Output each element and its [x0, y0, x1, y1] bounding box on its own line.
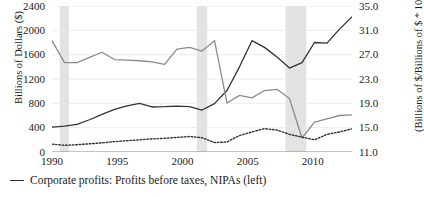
y-tick-right: 27.0	[359, 49, 403, 60]
y-tick-right: 23.0	[359, 74, 403, 85]
x-tick: 2000	[152, 156, 212, 167]
chart-canvas	[52, 6, 352, 152]
y-tick-left: 1600	[0, 49, 45, 60]
legend-line-marker	[10, 180, 24, 181]
y-tick-right: 15.0	[359, 122, 403, 133]
y-axis-label-right: (Billions of $/Billions of $ * 100)	[413, 0, 424, 142]
y-tick-right: 31.0	[359, 25, 403, 36]
y-tick-right: 35.0	[359, 1, 403, 12]
y-tick-left: 2400	[0, 1, 45, 12]
chart-legend: Corporate profits: Profits before taxes,…	[10, 174, 266, 186]
y-tick-right: 11.0	[359, 147, 403, 158]
y-tick-left: 1200	[0, 74, 45, 85]
y-tick-right: 19.0	[359, 98, 403, 109]
y-tick-left: 400	[0, 122, 45, 133]
x-tick: 2010	[283, 156, 343, 167]
x-tick: 1990	[22, 156, 82, 167]
plot-area	[52, 6, 352, 152]
y-tick-left: 800	[0, 98, 45, 109]
x-tick: 1995	[87, 156, 147, 167]
y-tick-left: 2000	[0, 25, 45, 36]
x-tick: 2005	[218, 156, 278, 167]
legend-label-corporate-profits: Corporate profits: Profits before taxes,…	[30, 174, 266, 186]
